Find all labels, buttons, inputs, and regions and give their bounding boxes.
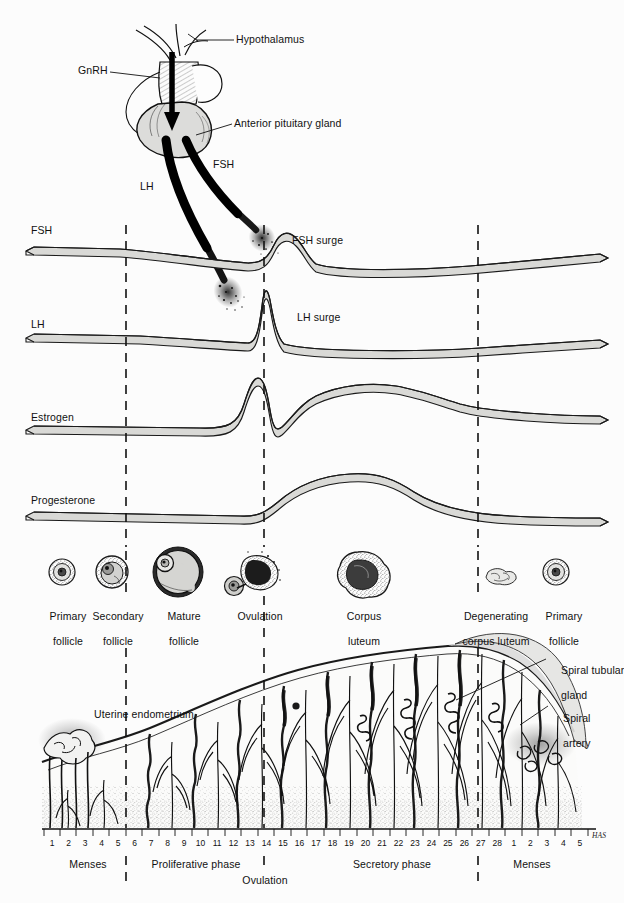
ovulation-icon	[225, 551, 281, 595]
label-line-2: follicle	[549, 635, 579, 647]
label-fsh-arrow: FSH	[213, 158, 234, 170]
day-number: 12	[226, 838, 242, 848]
label-line-1: Mature	[167, 610, 200, 622]
label-fsh-surge: FSH surge	[292, 234, 343, 246]
curve-estrogen	[26, 378, 608, 437]
curve-lh	[26, 291, 608, 359]
label-line-2: artery	[563, 737, 590, 749]
diagram-graphics	[0, 0, 624, 903]
day-number: 16	[292, 838, 308, 848]
label-line-2: corpus luteum	[462, 635, 529, 647]
label-anterior-pituitary-gland: Anterior pituitary gland	[234, 117, 341, 129]
day-number: 13	[242, 838, 258, 848]
label-line-1: Spiral	[563, 712, 590, 724]
label-degenerating-corpus-luteum: Degenerating corpus luteum	[438, 598, 542, 660]
day-number: 1	[506, 838, 522, 848]
label-spiral-artery: Spiral artery	[551, 700, 591, 762]
day-number: 7	[143, 838, 159, 848]
label-line-2: follicle	[103, 635, 133, 647]
figure-canvas: Hypothalamus GnRH Anterior pituitary gla…	[0, 0, 624, 903]
label-lh-surge: LH surge	[297, 311, 340, 323]
primary-follicle-1-icon	[49, 559, 75, 585]
day-number: 9	[176, 838, 192, 848]
day-number: 18	[324, 838, 340, 848]
label-uterine-endometrium: Uterine endometrium	[94, 708, 194, 720]
secondary-follicle-icon	[96, 556, 128, 588]
label-curve-progesterone: Progesterone	[31, 494, 95, 506]
day-number: 6	[127, 838, 143, 848]
day-number: 5	[110, 838, 126, 848]
label-ovulation-axis: Ovulation	[230, 874, 300, 886]
label-line-1: Corpus	[347, 610, 381, 622]
label-line-2: luteum	[348, 635, 380, 647]
label-corpus-luteum: Corpus luteum	[326, 598, 390, 660]
day-number: 1	[44, 838, 60, 848]
label-phase-proliferative: Proliferative phase	[130, 858, 262, 870]
label-line-1: Primary	[546, 610, 583, 622]
day-number: 23	[407, 838, 423, 848]
label-hypothalamus: Hypothalamus	[236, 33, 304, 45]
label-line-1: Spiral tubular	[561, 664, 624, 676]
day-number: 3	[77, 838, 93, 848]
label-secondary-follicle: Secondary follicle	[76, 598, 148, 660]
day-number: 14	[259, 838, 275, 848]
label-line-1: Degenerating	[464, 610, 528, 622]
day-number: 4	[94, 838, 110, 848]
day-number: 27	[473, 838, 489, 848]
day-number: 2	[522, 838, 538, 848]
day-tick-marks	[44, 829, 588, 836]
uterine-endometrium-illustration	[38, 634, 596, 836]
day-number: 2	[61, 838, 77, 848]
corpus-luteum-icon	[338, 552, 391, 598]
label-line-2: follicle	[169, 635, 199, 647]
label-lh-arrow: LH	[140, 180, 154, 192]
label-phase-menses-1: Menses	[52, 858, 124, 870]
day-number: 25	[440, 838, 456, 848]
day-number: 15	[275, 838, 291, 848]
label-curve-estrogen: Estrogen	[31, 411, 74, 423]
day-number: 21	[374, 838, 390, 848]
mature-follicle-icon	[153, 547, 203, 597]
day-number: 24	[423, 838, 439, 848]
curve-progesterone	[26, 474, 608, 526]
label-ovulation-stage: Ovulation	[222, 598, 286, 635]
day-number: 5	[572, 838, 588, 848]
label-phase-secretory: Secretory phase	[334, 858, 450, 870]
day-axis-numbers: 1234567891011121314151617181920212223242…	[52, 838, 592, 852]
day-number: 22	[390, 838, 406, 848]
day-number: 11	[209, 838, 225, 848]
figure-caption: FIGURE The normal female	[76, 896, 172, 903]
label-primary-follicle-2: Primary follicle	[528, 598, 588, 660]
day-number: 19	[341, 838, 357, 848]
artist-signature: HAS	[592, 832, 606, 841]
label-line-1: Ovulation	[237, 610, 282, 622]
primary-follicle-2-icon	[543, 559, 569, 585]
day-number: 17	[308, 838, 324, 848]
degenerating-corpus-luteum-icon	[486, 569, 516, 585]
label-curve-fsh: FSH	[31, 224, 52, 236]
day-number: 8	[160, 838, 176, 848]
label-mature-follicle: Mature follicle	[146, 598, 210, 660]
label-phase-menses-2: Menses	[496, 858, 568, 870]
day-number: 10	[193, 838, 209, 848]
day-number: 20	[357, 838, 373, 848]
label-gnrh: GnRH	[78, 64, 108, 76]
label-line-1: Secondary	[92, 610, 143, 622]
day-number: 3	[539, 838, 555, 848]
ovarian-stage-illustrations	[49, 547, 569, 598]
label-curve-lh: LH	[31, 318, 45, 330]
day-number: 28	[489, 838, 505, 848]
day-number: 4	[555, 838, 571, 848]
day-number: 26	[456, 838, 472, 848]
